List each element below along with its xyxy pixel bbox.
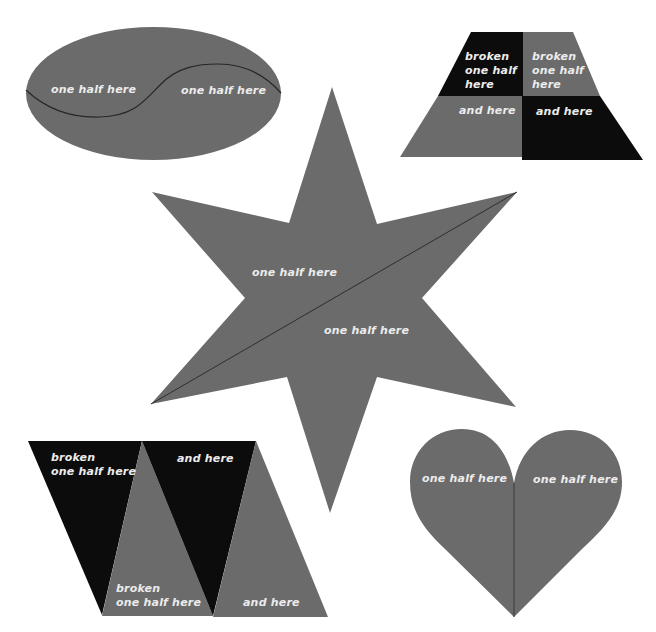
heart-shape xyxy=(410,429,622,617)
trapezoid-bottom-left-label: and here xyxy=(459,104,516,118)
parallelogram-top-right-label: and here xyxy=(177,452,234,466)
star-lower-label: one half here xyxy=(324,324,409,338)
parallelogram-bottom-left-label: broken one half here xyxy=(116,582,201,610)
heart-left-label: one half here xyxy=(422,472,507,486)
ellipse-right-label: one half here xyxy=(181,84,266,98)
trapezoid-bottom-right-label: and here xyxy=(536,105,593,119)
trapezoid-shape xyxy=(400,32,643,160)
ellipse-left-label: one half here xyxy=(51,83,136,97)
heart-right-label: one half here xyxy=(533,473,618,487)
parallelogram-bottom-right-label: and here xyxy=(243,596,300,610)
trapezoid-top-right-label: broken one half here xyxy=(532,50,584,92)
parallelogram-top-left-label: broken one half here xyxy=(51,451,136,479)
trapezoid-top-left-label: broken one half here xyxy=(465,50,517,92)
star-upper-label: one half here xyxy=(252,266,337,280)
shapes-diagram: one half here one half here broken one h… xyxy=(0,0,656,632)
